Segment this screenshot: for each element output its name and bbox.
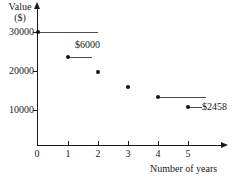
x-tick-label-5: 5 (180, 148, 196, 159)
annotation-6000: $6000 (75, 39, 100, 50)
y-axis-title-line1: Value (9, 1, 32, 12)
data-point-year2 (96, 70, 101, 75)
x-axis-line (37, 145, 223, 146)
x-tick-mark-5 (188, 141, 189, 146)
y-axis-title-line2: ($) (3, 12, 37, 23)
x-axis-arrow-icon (221, 142, 228, 148)
data-point-year1 (66, 55, 71, 60)
data-point-year5 (186, 105, 191, 110)
x-tick-label-3: 3 (120, 148, 136, 159)
y-tick-label-30000: 30000 (9, 27, 34, 37)
y-tick-label-10000: 10000 (9, 105, 34, 115)
x-tick-mark-4 (158, 141, 159, 146)
leader-line-year1 (68, 57, 92, 58)
y-axis-line (37, 8, 38, 146)
leader-line-year4 (158, 97, 206, 98)
y-axis-title: Value ($) (3, 1, 37, 23)
x-tick-label-2: 2 (90, 148, 106, 159)
data-point-year0 (36, 30, 41, 35)
x-tick-label-4: 4 (150, 148, 166, 159)
y-axis-arrow-icon (34, 2, 40, 9)
scatter-chart: Value ($) 30000 20000 10000 0 1 2 3 4 5 … (0, 0, 236, 179)
leader-line-year5 (188, 107, 202, 108)
x-tick-mark-2 (98, 141, 99, 146)
leader-line-year0 (38, 32, 98, 33)
x-tick-label-0: 0 (29, 148, 45, 159)
x-tick-mark-1 (68, 141, 69, 146)
data-point-year3 (126, 85, 131, 90)
annotation-2458: $2458 (202, 101, 227, 112)
x-axis-title: Number of years (150, 163, 217, 174)
x-tick-mark-3 (128, 141, 129, 146)
y-tick-label-20000: 20000 (9, 66, 34, 76)
x-tick-mark-0 (37, 141, 38, 146)
data-point-year4 (156, 95, 161, 100)
x-tick-label-1: 1 (60, 148, 76, 159)
